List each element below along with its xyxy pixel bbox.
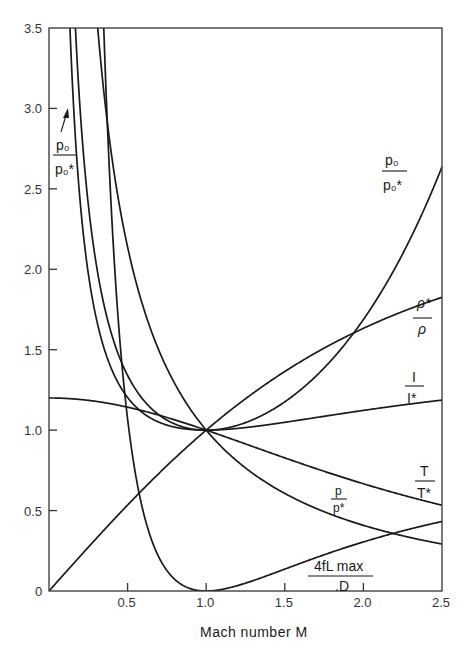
x-tick-label: 2.5 bbox=[432, 595, 450, 610]
curve-t-t- bbox=[49, 398, 442, 505]
curve-p0-p0- bbox=[57, 0, 442, 430]
svg-text:p₀*: p₀* bbox=[383, 177, 403, 193]
svg-text:T: T bbox=[420, 463, 429, 479]
y-tick-label: 3.0 bbox=[24, 101, 42, 116]
label-p0-p0star-right: p₀ p₀* bbox=[382, 152, 407, 193]
svg-text:I: I bbox=[412, 369, 416, 385]
label-I-Istar: I I* bbox=[405, 369, 424, 406]
label-p0-p0star-left: p₀ p₀* bbox=[53, 108, 76, 177]
x-tick-label: 1.0 bbox=[196, 595, 214, 610]
svg-text:p: p bbox=[335, 484, 342, 498]
y-tick-label: 0.5 bbox=[24, 504, 42, 519]
curve-4flmax-d bbox=[57, 0, 442, 591]
y-tick-label: 1.0 bbox=[24, 423, 42, 438]
x-axis-label: Mach number M bbox=[200, 624, 308, 640]
svg-text:p₀*: p₀* bbox=[55, 161, 75, 177]
label-p-pstar: p p* bbox=[331, 484, 347, 515]
label-T-Tstar: T T* bbox=[415, 463, 435, 501]
y-tick-label: 2.0 bbox=[24, 262, 42, 277]
x-tick-label: 2.0 bbox=[353, 595, 371, 610]
svg-text:p*: p* bbox=[333, 501, 345, 515]
svg-text:p₀: p₀ bbox=[385, 152, 399, 168]
y-tick-label: 2.5 bbox=[24, 182, 42, 197]
svg-text:.D: .D bbox=[335, 578, 349, 594]
curve-i-i- bbox=[57, 0, 442, 430]
svg-text:ρ*: ρ* bbox=[416, 295, 431, 311]
svg-text:T*: T* bbox=[417, 485, 432, 501]
x-tick-label: 1.5 bbox=[275, 595, 293, 610]
y-tick-label: 0 bbox=[35, 584, 42, 599]
label-rho-star-rho: ρ* ρ bbox=[413, 295, 432, 337]
plot-frame bbox=[49, 28, 442, 591]
y-tick-label: 3.5 bbox=[24, 21, 42, 36]
svg-text:ρ: ρ bbox=[417, 321, 426, 337]
svg-text:p₀: p₀ bbox=[56, 137, 70, 153]
ticks: 0.51.01.52.02.500.51.01.52.02.53.03.5 bbox=[24, 21, 450, 610]
chart: 0.51.01.52.02.500.51.01.52.02.53.03.5 p₀… bbox=[0, 0, 474, 651]
curves bbox=[49, 0, 442, 591]
svg-text:4fL max: 4fL max bbox=[314, 558, 363, 574]
y-tick-label: 1.5 bbox=[24, 343, 42, 358]
svg-text:I*: I* bbox=[407, 390, 417, 406]
x-tick-label: 0.5 bbox=[118, 595, 136, 610]
